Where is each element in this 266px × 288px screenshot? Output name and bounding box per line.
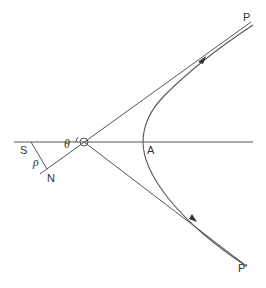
label-A: A <box>147 144 155 156</box>
hyperbola-branch <box>143 25 253 266</box>
arrow-outgoing-icon <box>189 214 197 222</box>
theta-angle-arc <box>76 137 78 142</box>
hyperbola-diagram: P P' A S N ρ θ <box>0 0 266 288</box>
label-P-prime: P' <box>238 262 247 274</box>
label-N: N <box>47 172 55 184</box>
label-theta: θ <box>64 137 70 151</box>
label-P: P <box>243 11 250 23</box>
asymptote-upper <box>40 22 251 174</box>
label-S: S <box>20 144 27 156</box>
label-rho: ρ <box>32 155 39 169</box>
asymptote-lower <box>84 142 244 264</box>
